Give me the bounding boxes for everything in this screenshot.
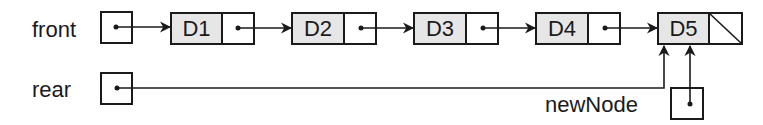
node-d3: D3	[414, 13, 535, 44]
newnode-pointer-box	[671, 46, 703, 119]
linked-list-diagram: D1 D2 D3 D4 D5	[0, 0, 763, 125]
node-d5: D5	[658, 13, 742, 44]
node-d4: D4	[536, 13, 657, 44]
rear-pointer-box	[101, 46, 664, 104]
front-pointer-box	[101, 12, 170, 43]
node-d2: D2	[292, 13, 413, 44]
node-d4-label: D4	[548, 16, 576, 41]
node-d1-label: D1	[182, 16, 210, 41]
node-d2-label: D2	[304, 16, 332, 41]
node-d3-label: D3	[426, 16, 454, 41]
node-d5-label: D5	[669, 16, 697, 41]
node-d1: D1	[171, 13, 291, 44]
